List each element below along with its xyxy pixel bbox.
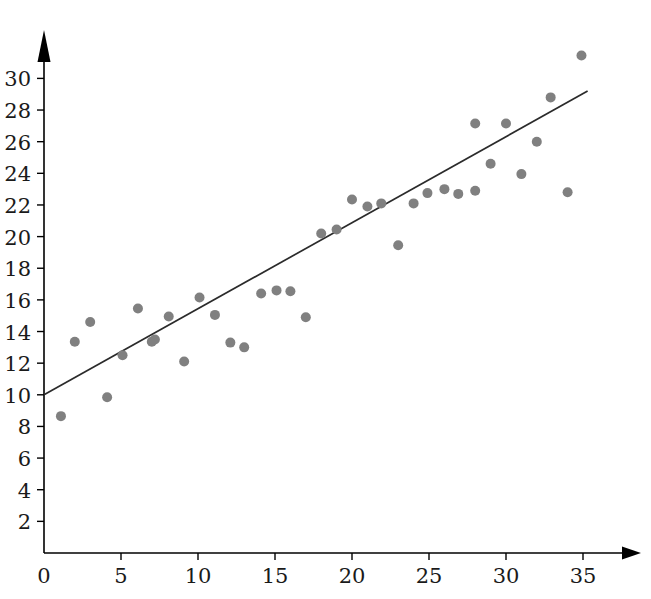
data-point xyxy=(347,194,357,204)
data-point xyxy=(563,187,573,197)
data-point xyxy=(576,50,586,60)
data-point xyxy=(486,159,496,169)
y-tick-label: 26 xyxy=(4,131,31,155)
x-tick-label: 35 xyxy=(570,564,597,588)
data-point xyxy=(516,169,526,179)
data-point xyxy=(133,304,143,314)
trend-line xyxy=(44,91,588,395)
data-point xyxy=(546,92,556,102)
data-point xyxy=(164,311,174,321)
data-point xyxy=(316,228,326,238)
data-point xyxy=(532,137,542,147)
y-tick-label: 2 xyxy=(18,510,31,534)
y-tick-label: 30 xyxy=(4,67,31,91)
x-tick-label: 15 xyxy=(262,564,289,588)
data-point xyxy=(256,289,266,299)
y-tick-label: 4 xyxy=(18,479,31,503)
x-tick-label: 25 xyxy=(416,564,443,588)
data-point xyxy=(470,118,480,128)
data-point xyxy=(422,188,432,198)
scatter-plot-figure: 05101520253035 2468101214161820222426283… xyxy=(0,0,651,599)
data-point xyxy=(225,338,235,348)
y-axis-ticks: 24681012141618202224262830 xyxy=(4,67,44,534)
data-point xyxy=(393,240,403,250)
arrow-up-icon xyxy=(38,30,51,62)
y-tick-label: 28 xyxy=(4,99,31,123)
data-point xyxy=(470,186,480,196)
data-point xyxy=(210,310,220,320)
data-point xyxy=(332,224,342,234)
y-tick-label: 6 xyxy=(18,447,31,471)
x-axis-ticks: 05101520253035 xyxy=(37,553,596,588)
x-tick-label: 20 xyxy=(339,564,366,588)
data-point xyxy=(56,411,66,421)
data-point xyxy=(409,198,419,208)
data-point xyxy=(179,357,189,367)
data-point xyxy=(301,312,311,322)
data-point xyxy=(272,285,282,295)
y-tick-label: 22 xyxy=(4,194,31,218)
axes-group xyxy=(38,30,642,560)
y-tick-label: 18 xyxy=(4,257,31,281)
y-tick-label: 14 xyxy=(4,321,31,345)
y-tick-label: 24 xyxy=(4,162,31,186)
y-tick-label: 10 xyxy=(4,384,31,408)
data-point xyxy=(195,293,205,303)
arrow-right-icon xyxy=(622,547,641,560)
data-point xyxy=(70,337,80,347)
data-point xyxy=(102,392,112,402)
data-point xyxy=(285,286,295,296)
data-point xyxy=(453,189,463,199)
plot-canvas: 05101520253035 2468101214161820222426283… xyxy=(0,0,651,599)
data-point xyxy=(362,202,372,212)
data-point xyxy=(239,342,249,352)
x-tick-label: 0 xyxy=(37,564,50,588)
x-tick-label: 30 xyxy=(493,564,520,588)
data-point xyxy=(439,184,449,194)
data-point xyxy=(501,118,511,128)
data-point xyxy=(150,334,160,344)
data-points-group xyxy=(56,50,587,421)
y-tick-label: 8 xyxy=(18,415,31,439)
data-point xyxy=(85,317,95,327)
y-tick-label: 12 xyxy=(4,352,31,376)
trend-line-group xyxy=(44,91,588,395)
x-tick-label: 10 xyxy=(185,564,212,588)
x-tick-label: 5 xyxy=(114,564,127,588)
data-point xyxy=(118,350,128,360)
y-tick-label: 20 xyxy=(4,226,31,250)
data-point xyxy=(376,198,386,208)
y-tick-label: 16 xyxy=(4,289,31,313)
